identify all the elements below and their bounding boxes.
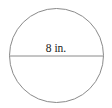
circle-diagram: 8 in. bbox=[0, 0, 112, 108]
diameter-label: 8 in. bbox=[46, 42, 67, 54]
